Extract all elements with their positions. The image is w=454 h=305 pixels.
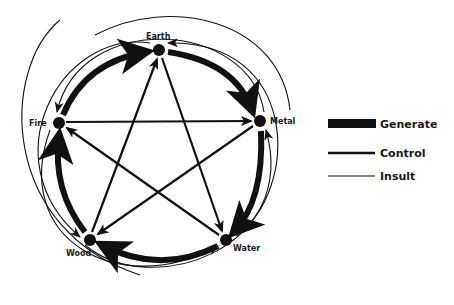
control-line-fire-metal	[66, 121, 251, 122]
node-fire	[53, 117, 65, 129]
legend-label-generate: Generate	[380, 118, 437, 131]
nodes	[53, 44, 266, 246]
legend-label-insult: Insult	[380, 170, 415, 183]
generate-arcs	[58, 52, 261, 260]
generate-arc-fire-earth	[63, 52, 146, 115]
label-fire: Fire	[29, 119, 47, 128]
control-star	[66, 58, 253, 235]
control-line-wood-earth	[92, 59, 157, 232]
label-metal: Metal	[270, 117, 296, 126]
legend: Generate Control Insult	[328, 118, 437, 183]
control-line-metal-wood	[98, 126, 253, 234]
insult-arc-outer-top	[95, 17, 290, 110]
five-elements-diagram: Earth Metal Water Wood Fire Generate Con…	[0, 0, 454, 305]
label-earth: Earth	[146, 32, 171, 41]
control-line-water-fire	[67, 128, 219, 235]
node-wood	[84, 234, 96, 246]
control-line-earth-water	[162, 58, 222, 231]
legend-swatch-generate	[328, 119, 376, 128]
node-water	[220, 234, 232, 246]
generate-arc-metal-water	[234, 131, 261, 232]
insult-arcs	[22, 17, 290, 275]
legend-label-control: Control	[380, 147, 425, 160]
node-earth	[153, 44, 165, 56]
label-wood: Wood	[66, 249, 92, 258]
label-water: Water	[233, 244, 260, 253]
generate-arc-earth-metal	[168, 52, 252, 110]
node-metal	[254, 115, 266, 127]
